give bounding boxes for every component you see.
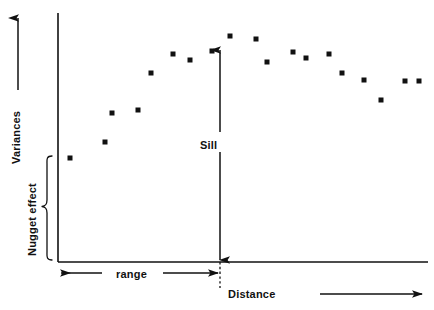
data-point xyxy=(68,156,73,161)
semivariogram-figure: Variances Nugget effect Sill range Dista… xyxy=(0,0,434,310)
y-axis-label: Variances xyxy=(10,111,22,164)
data-point xyxy=(327,52,332,57)
data-point xyxy=(110,111,115,116)
plot-canvas xyxy=(0,0,434,310)
range-label: range xyxy=(116,268,147,280)
data-point xyxy=(149,71,154,76)
data-point xyxy=(254,37,259,42)
data-point xyxy=(265,60,270,65)
data-point xyxy=(340,71,345,76)
data-point xyxy=(379,98,384,103)
data-point xyxy=(304,56,309,61)
data-point xyxy=(417,79,422,84)
data-point xyxy=(228,34,233,39)
axes-group xyxy=(58,13,428,262)
data-point xyxy=(403,79,408,84)
nugget-effect-label: Nugget effect xyxy=(26,183,38,256)
data-point xyxy=(291,50,296,55)
data-point xyxy=(103,140,108,145)
data-point-series xyxy=(68,34,422,161)
nugget-effect-brace-icon xyxy=(42,156,52,260)
x-axis-label: Distance xyxy=(228,288,275,300)
data-point xyxy=(362,78,367,83)
data-point xyxy=(188,58,193,63)
data-point xyxy=(136,108,141,113)
data-point xyxy=(210,49,215,54)
data-point xyxy=(171,52,176,57)
sill-label: Sill xyxy=(200,139,217,151)
